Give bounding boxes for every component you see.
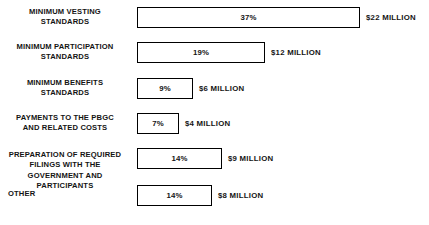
bar-group: 7% $4 MILLION — [137, 113, 179, 134]
bar-amount-label: $8 MILLION — [218, 185, 263, 206]
horizontal-bar-chart: MINIMUM VESTING STANDARDS 37% $22 MILLIO… — [0, 0, 429, 225]
bar-percent-label: 7% — [137, 113, 179, 134]
bar-amount-label: $4 MILLION — [185, 113, 230, 134]
bar-group: 19% $12 MILLION — [137, 42, 265, 63]
bar-percent-label: 14% — [137, 185, 212, 206]
bar-group: 14% $9 MILLION — [137, 148, 222, 169]
row-label-minimum-vesting-standards: MINIMUM VESTING STANDARDS — [4, 7, 126, 28]
bar-percent-label: 37% — [137, 7, 360, 28]
row-label-payments-to-the-pbgc: PAYMENTS TO THE PBGC AND RELATED COSTS — [4, 113, 126, 134]
bar-group: 37% $22 MILLION — [137, 7, 360, 28]
bar-percent-label: 19% — [137, 42, 265, 63]
row-label-minimum-participation-standards: MINIMUM PARTICIPATION STANDARDS — [4, 42, 126, 63]
row-label-preparation-of-required-filings: PREPARATION OF REQUIRED FILINGS WITH THE… — [4, 150, 126, 192]
row-label-other: OTHER — [8, 189, 130, 199]
bar-group: 14% $8 MILLION — [137, 185, 212, 206]
bar-amount-label: $12 MILLION — [271, 42, 321, 63]
bar-amount-label: $9 MILLION — [228, 148, 273, 169]
bar-amount-label: $6 MILLION — [199, 78, 244, 99]
row-label-minimum-benefits-standards: MINIMUM BENEFITS STANDARDS — [4, 78, 126, 99]
bar-percent-label: 14% — [137, 148, 222, 169]
bar-amount-label: $22 MILLION — [366, 7, 416, 28]
bar-group: 9% $6 MILLION — [137, 78, 193, 99]
bar-percent-label: 9% — [137, 78, 193, 99]
